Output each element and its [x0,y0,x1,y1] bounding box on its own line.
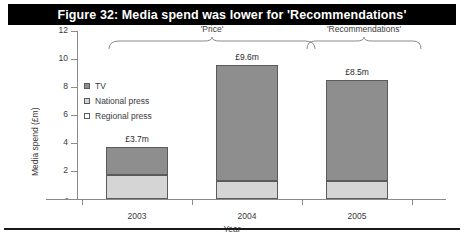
legend-label-regional-press: Regional press [95,111,152,121]
x-tick-label-2003: 2003 [107,211,167,221]
y-tick-label-12: 12 [46,25,68,35]
group-label-price: 'Price' [142,24,282,34]
y-tick-label-6: 6 [46,109,68,119]
y-tick-label-4: 4 [46,137,68,147]
bottom-divider [4,228,460,230]
x-tick-2 [302,199,303,205]
y-axis-title: Media spend (£m) [30,97,44,187]
x-tick-end [412,199,413,205]
y-tick-4 [71,143,77,144]
figure-title-bar: Figure 32: Media spend was lower for 'Re… [8,4,456,25]
bar-segment-tv-2003[interactable] [106,147,168,175]
chart-plot-area: Media spend (£m) - 2 4 6 8 10 12 TV Nati… [0,25,464,211]
x-tick-1 [192,199,193,205]
group-label-recommendations: 'Recommendations' [294,24,434,34]
legend-swatch-icon-tv [84,83,90,89]
figure-container: Figure 32: Media spend was lower for 'Re… [0,0,464,236]
x-tick-start [82,199,83,205]
y-tick-6 [71,115,77,116]
legend-swatch-icon-national-press [84,98,90,104]
bar-segment-national-press-2004[interactable] [216,181,278,199]
bar-segment-national-press-2005[interactable] [326,181,388,199]
legend-label-national-press: National press [95,96,149,106]
chart-legend: TV National press Regional press [84,80,152,125]
x-tick-label-2005: 2005 [327,211,387,221]
y-tick-10 [71,59,77,60]
curly-brace-icon-recommendations [305,36,423,50]
legend-item-regional-press: Regional press [84,110,152,122]
y-tick-8 [71,87,77,88]
x-tick-label-2004: 2004 [217,211,277,221]
legend-item-national-press: National press [84,95,152,107]
bar-value-2005: £8.5m [317,67,397,77]
bar-segment-tv-2005[interactable] [326,80,388,181]
y-tick-label-0: - [46,193,68,203]
y-tick-0 [71,199,77,200]
bar-segment-national-press-2003[interactable] [106,175,168,199]
y-axis-line [77,31,78,199]
y-tick-2 [71,171,77,172]
y-tick-label-8: 8 [46,81,68,91]
bar-value-2004: £9.6m [207,52,287,62]
bar-value-2003: £3.7m [97,134,177,144]
bar-segment-tv-2004[interactable] [216,65,278,181]
curly-brace-icon-price [107,36,317,50]
legend-item-tv: TV [84,80,152,92]
y-tick-label-2: 2 [46,165,68,175]
y-tick-label-10: 10 [46,53,68,63]
legend-label-tv: TV [95,81,106,91]
x-axis-line [46,199,446,200]
y-tick-12 [71,31,77,32]
legend-swatch-icon-regional-press [84,113,90,119]
page-title: Figure 32: Media spend was lower for 'Re… [58,8,407,22]
